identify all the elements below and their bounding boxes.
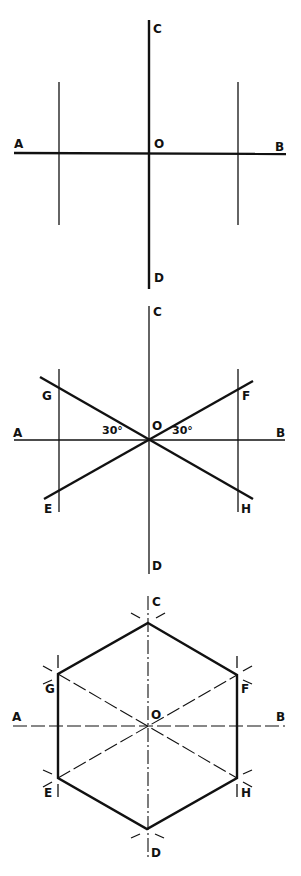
- label-f: F: [242, 389, 250, 403]
- line-g-h-30deg: [40, 377, 253, 499]
- panel-step-2: A B C D O G F E H 30° 30°: [13, 305, 285, 574]
- label-a: A: [14, 137, 24, 151]
- label-f: F: [241, 682, 249, 696]
- label-d: D: [152, 559, 162, 573]
- label-h: H: [241, 502, 251, 516]
- label-e: E: [44, 502, 52, 516]
- panel-step-3: A B C D O G F E H: [12, 595, 285, 860]
- label-o: O: [151, 708, 161, 722]
- label-a: A: [12, 710, 22, 724]
- panel-step-1: A B C D O: [14, 20, 286, 289]
- label-c: C: [153, 305, 162, 319]
- label-d: D: [151, 846, 161, 860]
- label-g: G: [42, 389, 52, 403]
- label-b: B: [276, 710, 285, 724]
- label-h: H: [241, 786, 251, 800]
- label-e: E: [44, 786, 52, 800]
- label-d: D: [154, 271, 164, 285]
- label-a: A: [13, 426, 23, 440]
- label-o: O: [154, 137, 164, 151]
- label-o: O: [152, 419, 162, 433]
- hexagon-construction-figure: A B C D O A B C D O G F E H 30° 30°: [0, 0, 301, 876]
- label-b: B: [275, 140, 284, 154]
- label-c: C: [152, 595, 161, 609]
- angle-label-right: 30°: [172, 424, 193, 437]
- label-g: G: [45, 682, 55, 696]
- label-b: B: [276, 426, 285, 440]
- label-c: C: [153, 22, 162, 36]
- angle-label-left: 30°: [102, 424, 123, 437]
